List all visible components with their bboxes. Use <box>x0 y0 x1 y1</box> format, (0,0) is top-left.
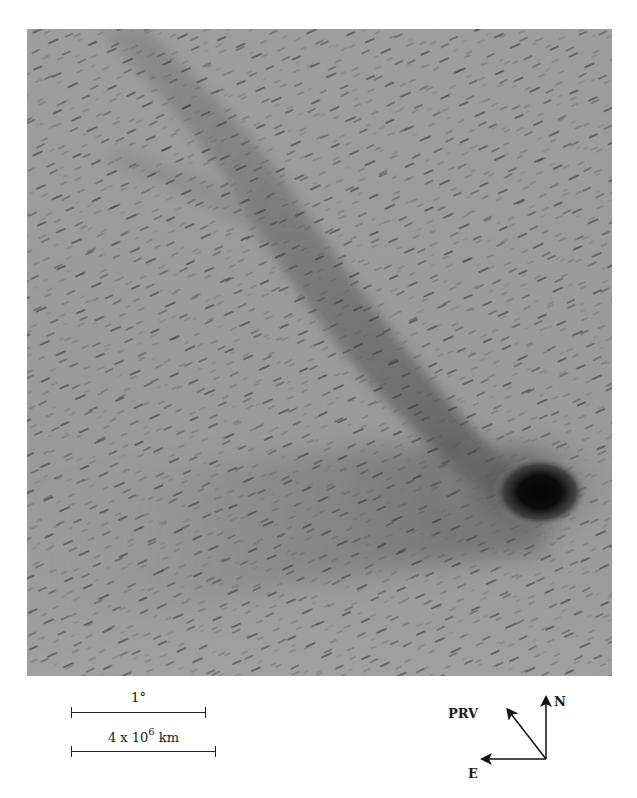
prv-arrow-icon <box>508 710 546 759</box>
north-label: N <box>554 694 566 709</box>
comet-image <box>27 29 612 676</box>
east-label: E <box>468 766 478 781</box>
linear-scale-bar <box>72 751 215 752</box>
orientation-compass: N E PRV <box>440 680 580 790</box>
linear-scale-label: 4 x 106 km <box>72 728 215 745</box>
angular-scale-bar <box>72 712 205 713</box>
nucleus <box>492 456 588 528</box>
angular-scale-label: 1° <box>72 690 205 705</box>
comet-photograph <box>27 29 612 676</box>
prv-label: PRV <box>448 706 478 721</box>
